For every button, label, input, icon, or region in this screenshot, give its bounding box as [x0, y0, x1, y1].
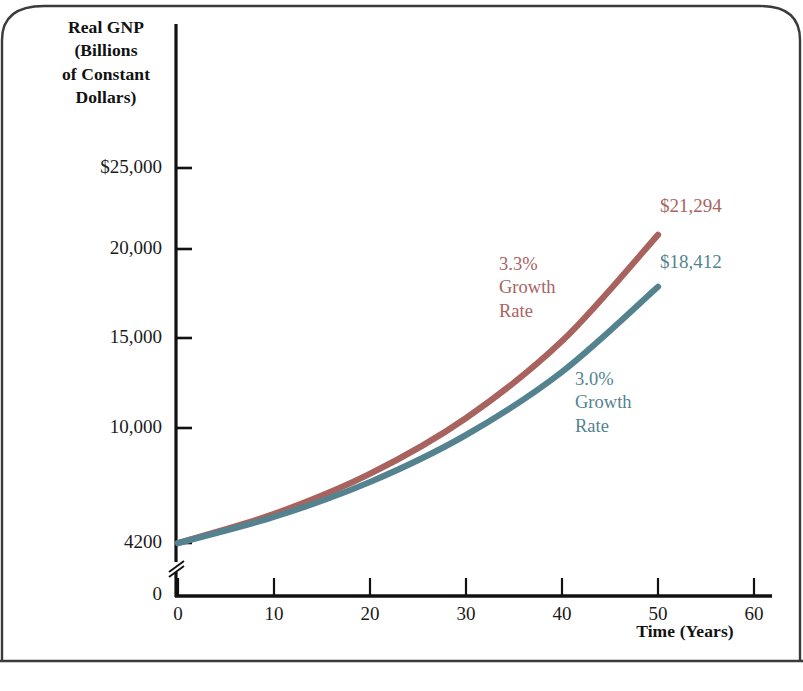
- y-axis-ticks: [176, 168, 192, 543]
- x-tick-label-30: 30: [436, 603, 496, 625]
- figure-container: Real GNP (Billions of Constant Dollars) …: [0, 0, 803, 691]
- end-value-label-3-3-percent: $21,294: [660, 195, 722, 217]
- y-tick-label-10000: 10,000: [52, 416, 162, 438]
- x-tick-label-60: 60: [724, 603, 784, 625]
- y-tick-label-0: 0: [52, 583, 162, 605]
- annotation-red-line-2: Growth: [499, 276, 556, 299]
- x-tick-label-0: 0: [148, 603, 208, 625]
- y-tick-label-20000: 20,000: [52, 237, 162, 259]
- x-tick-label-50: 50: [628, 603, 688, 625]
- x-tick-label-20: 20: [340, 603, 400, 625]
- end-value-label-3-0-percent: $18,412: [660, 251, 722, 273]
- annotation-red-line-1: 3.3%: [499, 253, 556, 276]
- annotation-red-line-3: Rate: [499, 300, 556, 323]
- y-axis-title-line-2: (Billions: [36, 39, 176, 62]
- y-axis-title-line-4: Dollars): [36, 86, 176, 109]
- x-axis-ticks: [178, 578, 754, 596]
- y-axis-title-line-3: of Constant: [36, 63, 176, 86]
- y-axis-title-line-1: Real GNP: [36, 16, 176, 39]
- y-tick-label-15000: 15,000: [52, 326, 162, 348]
- y-tick-label-4200: 4200: [52, 531, 162, 553]
- annotation-teal-line-2: Growth: [575, 391, 632, 414]
- annotation-teal-line-1: 3.0%: [575, 368, 632, 391]
- annotation-3-0-percent-growth-rate: 3.0% Growth Rate: [575, 368, 632, 438]
- x-tick-label-10: 10: [244, 603, 304, 625]
- annotation-3-3-percent-growth-rate: 3.3% Growth Rate: [499, 253, 556, 323]
- y-axis-title: Real GNP (Billions of Constant Dollars): [36, 16, 176, 109]
- y-tick-label-25000: $25,000: [52, 156, 162, 178]
- x-tick-label-40: 40: [532, 603, 592, 625]
- annotation-teal-line-3: Rate: [575, 415, 632, 438]
